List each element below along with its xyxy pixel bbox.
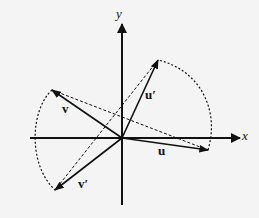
y-axis-label: y	[116, 6, 122, 22]
arc-v-to-vprime	[35, 90, 55, 190]
x-axis-label: x	[242, 128, 248, 144]
vector-v-prime	[55, 138, 122, 190]
vector-u-label: u	[158, 143, 165, 159]
vector-u-prime-label: u′	[145, 87, 156, 103]
vector-diagram	[0, 0, 259, 218]
vector-v-label: v	[62, 101, 69, 117]
arc-u-to-uprime	[158, 60, 211, 150]
vector-v-prime-label: v′	[78, 176, 88, 192]
